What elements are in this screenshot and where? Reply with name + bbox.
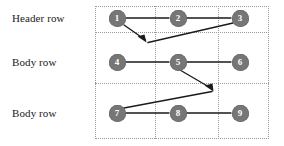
diagram-canvas: Header row Body row Body row 1 2 3 4 5 6… bbox=[0, 0, 284, 146]
node-3[interactable]: 3 bbox=[232, 10, 249, 27]
row-label-body-row-2: Body row bbox=[12, 107, 57, 119]
row-label-body-row-1: Body row bbox=[12, 56, 57, 68]
node-6[interactable]: 6 bbox=[232, 54, 249, 71]
node-9[interactable]: 9 bbox=[232, 105, 249, 122]
column-divider-2 bbox=[218, 6, 219, 139]
node-8[interactable]: 8 bbox=[170, 105, 187, 122]
node-2[interactable]: 2 bbox=[170, 10, 187, 27]
row-divider-2 bbox=[95, 83, 269, 84]
node-5[interactable]: 5 bbox=[170, 54, 187, 71]
node-1[interactable]: 1 bbox=[109, 10, 126, 27]
node-4[interactable]: 4 bbox=[109, 54, 126, 71]
row-label-header-row: Header row bbox=[12, 12, 65, 24]
column-divider-1 bbox=[155, 6, 156, 139]
node-7[interactable]: 7 bbox=[109, 105, 126, 122]
row-divider-1 bbox=[95, 32, 269, 33]
